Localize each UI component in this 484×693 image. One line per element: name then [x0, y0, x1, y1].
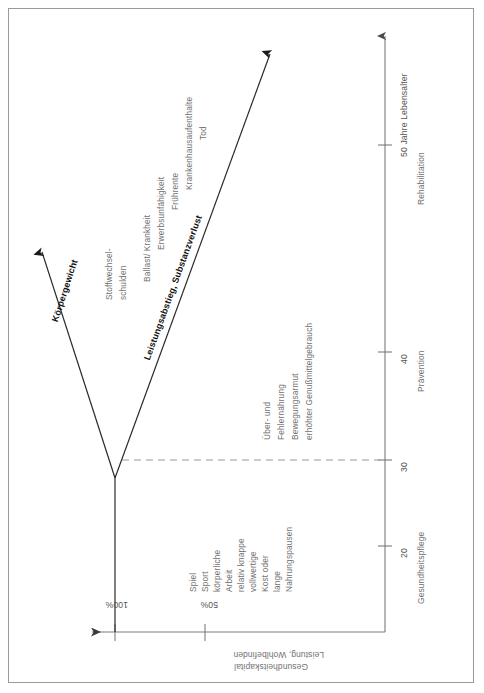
risk-item-3: erhöhter Genußmittelgebrauch [304, 323, 314, 440]
outcome-item-3: Krankenhausaufenthalte [184, 97, 194, 190]
x-tick-label-50: 50 Jahre Lebensalter [399, 73, 409, 157]
healthy-item-5: vollwertige [248, 551, 258, 592]
health-capital-diagram: 100% 50% Leistung, Wohlbefinden Gesundhe… [0, 0, 484, 693]
outcome-item-2: Frührente [170, 173, 180, 210]
x-stage-gesundheitspflege: Gesundheitspflege [416, 532, 426, 604]
y-axis-label-line2: Gesundheitskapital [234, 662, 308, 672]
healthy-item-7: lange [272, 571, 282, 592]
y-axis-label-line1: Leistung, Wohlbefinden [233, 650, 324, 660]
debt-item-1: schulden [118, 266, 128, 300]
healthy-item-3: Arbeit [224, 569, 234, 592]
diagram-page: 100% 50% Leistung, Wohlbefinden Gesundhe… [0, 0, 484, 693]
x-stage-praevention: Prävention [416, 350, 426, 392]
healthy-item-4: relativ knappe [236, 538, 246, 592]
healthy-item-8: Nahrungspausen [284, 527, 294, 592]
y-tick-label-100: 100% [105, 600, 128, 610]
y-tick-label-50: 50% [200, 600, 218, 610]
outcome-item-1: Erwerbsunfähigkeit [156, 177, 166, 250]
x-stage-rehabilitation: Rehabilitation [416, 152, 426, 205]
risk-item-1: Fehlernährung [276, 384, 286, 440]
x-tick-label-20: 20 [399, 548, 409, 558]
outcome-item-4: Tod [198, 126, 208, 140]
risk-item-0: Über- und [262, 402, 272, 440]
outcome-item-0: Ballast/ Krankheit [142, 215, 152, 282]
healthy-item-1: Sport [200, 571, 210, 592]
healthy-item-6: Kost oder [260, 555, 270, 592]
debt-item-0: Stoffwechsel- [104, 248, 114, 300]
risk-item-2: Bewegungsarmut [290, 373, 300, 440]
healthy-item-0: Spiel [188, 573, 198, 592]
x-tick-label-40: 40 [399, 354, 409, 364]
healthy-item-2: körperliche [212, 550, 222, 592]
x-tick-label-30: 30 [399, 462, 409, 472]
